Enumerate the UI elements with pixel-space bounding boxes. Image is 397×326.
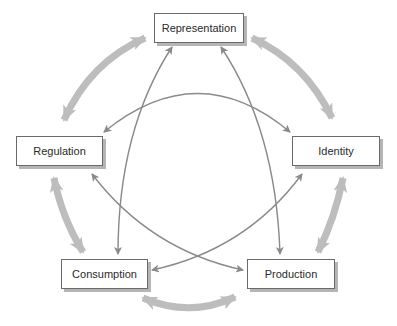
- node-regulation: Regulation: [16, 136, 103, 166]
- arrow-representation-production: [221, 47, 280, 254]
- node-identity: Identity: [292, 136, 380, 166]
- node-consumption: Consumption: [61, 259, 148, 289]
- arrow-regulation-identity: [104, 94, 290, 133]
- node-label: Production: [265, 268, 318, 280]
- arrow-identity-consumption: [152, 174, 302, 270]
- arrow-regulation-production: [92, 174, 243, 270]
- arrow-consumption-regulation: [54, 178, 83, 252]
- node-label: Consumption: [72, 268, 137, 280]
- arrow-representation-consumption: [118, 47, 172, 254]
- node-production: Production: [247, 259, 335, 289]
- node-representation: Representation: [154, 13, 244, 43]
- node-label: Representation: [162, 22, 237, 34]
- arrow-identity-production: [318, 178, 343, 252]
- arrow-regulation-representation: [64, 38, 145, 120]
- arrow-representation-identity: [252, 38, 332, 118]
- arrow-production-consumption: [143, 297, 235, 308]
- node-label: Regulation: [33, 145, 86, 157]
- inner-link-arrows: [92, 47, 302, 270]
- node-label: Identity: [318, 145, 353, 157]
